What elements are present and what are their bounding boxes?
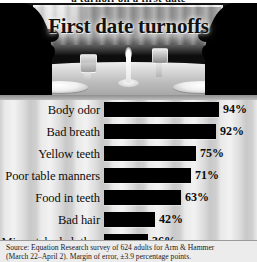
source-line-2: (March 22–April 2). Margin of error, ±3.…	[6, 252, 252, 261]
source-note: Source: Equation Research survey of 624 …	[0, 240, 257, 262]
bar-value-label: 94%	[223, 103, 247, 116]
bar-category-label: Food in teeth	[0, 192, 104, 205]
bar-chart-row: Bad breath92%	[0, 123, 257, 142]
graphic-title: First date turnoffs	[0, 16, 257, 37]
bar-chart-row: Poor table manners71%	[0, 167, 257, 186]
bar-category-label: Yellow teeth	[0, 148, 104, 161]
bar-category-label: Bad breath	[0, 126, 104, 139]
bar-category-label: Body odor	[0, 104, 104, 117]
bar-track: 63%	[104, 189, 257, 208]
water-glass-stem	[84, 72, 91, 81]
bar-chart-row: Bad hair42%	[0, 211, 257, 230]
bar	[104, 212, 155, 227]
wine-glass-stem	[156, 63, 162, 77]
bar-track: 75%	[104, 145, 257, 164]
bar-value-label: 63%	[185, 191, 209, 204]
water-glass	[80, 54, 97, 73]
bar-track: 71%	[104, 167, 257, 186]
candle-flame-icon	[125, 47, 132, 59]
bar	[104, 168, 191, 183]
bar-value-label: 42%	[159, 213, 183, 226]
bar-value-label: 92%	[220, 125, 244, 138]
bar	[104, 124, 216, 139]
header-photo: First date turnoffs	[0, 3, 257, 95]
bar	[104, 190, 181, 205]
bar-chart-row: Yellow teeth75%	[0, 145, 257, 164]
bar	[104, 146, 196, 161]
bar-track: 92%	[104, 123, 257, 142]
silhouette-chin	[202, 45, 215, 61]
bar-track: 42%	[104, 211, 257, 230]
bar	[104, 102, 219, 117]
bar-value-label: 75%	[200, 147, 224, 160]
infographic-root: a turnoff on a first date First date tur…	[0, 0, 257, 262]
bar-chart: Body odor94%Bad breath92%Yellow teeth75%…	[0, 95, 257, 262]
bar-category-label: Poor table manners	[0, 170, 104, 183]
source-line-1: Source: Equation Research survey of 624 …	[6, 243, 252, 252]
bar-chart-rows: Body odor94%Bad breath92%Yellow teeth75%…	[0, 101, 257, 255]
candle	[126, 57, 131, 83]
bar-chart-row: Body odor94%	[0, 101, 257, 120]
bar-category-label: Bad hair	[0, 214, 104, 227]
bar-track: 94%	[104, 101, 257, 120]
wine-glass	[152, 48, 168, 64]
bar-value-label: 71%	[195, 169, 219, 182]
bar-chart-row: Food in teeth63%	[0, 189, 257, 208]
